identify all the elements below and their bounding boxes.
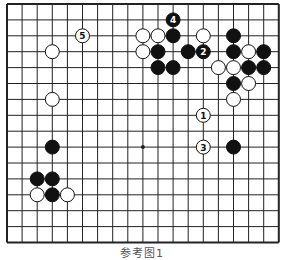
white-stone [60, 188, 74, 202]
move-number-label: 3 [200, 143, 206, 153]
white-stone [45, 92, 59, 106]
black-stone [227, 77, 241, 91]
move-number-label: 2 [200, 47, 206, 57]
white-stone [151, 29, 165, 43]
black-stone [181, 45, 195, 59]
hoshi-points [141, 145, 145, 149]
move-number-label: 1 [200, 111, 206, 121]
white-stone [45, 45, 59, 59]
black-stone [257, 45, 271, 59]
black-stone [227, 45, 241, 59]
black-stone [151, 61, 165, 75]
black-stone [45, 172, 59, 186]
black-stone: 4 [166, 13, 180, 27]
black-stone [166, 29, 180, 43]
white-stone: 3 [196, 140, 210, 154]
white-stone [136, 29, 150, 43]
white-stone: 1 [196, 108, 210, 122]
move-number-label: 5 [79, 31, 85, 41]
white-stone [227, 92, 241, 106]
black-stone [227, 29, 241, 43]
black-stone [227, 140, 241, 154]
black-stone [257, 61, 271, 75]
white-stone [242, 45, 256, 59]
black-stone: 2 [196, 45, 210, 59]
white-stone [227, 61, 241, 75]
black-stone [45, 188, 59, 202]
white-stone [30, 188, 44, 202]
white-stone [196, 29, 210, 43]
black-stone [30, 172, 44, 186]
white-stone [136, 45, 150, 59]
black-stone [151, 45, 165, 59]
diagram-caption: 参考图1 [0, 244, 284, 260]
black-stone [242, 61, 256, 75]
hoshi-point [141, 145, 145, 149]
move-number-label: 4 [170, 15, 176, 25]
black-stone [166, 61, 180, 75]
white-stone: 5 [76, 29, 90, 43]
white-stone [242, 77, 256, 91]
white-stone [211, 61, 225, 75]
stones-layer: 54213 [30, 13, 271, 202]
black-stone [45, 140, 59, 154]
